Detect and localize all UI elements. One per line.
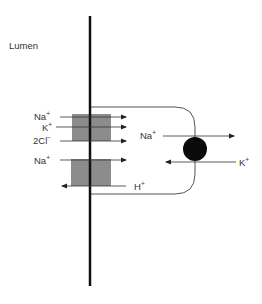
na-label-2: Na+ (34, 154, 50, 166)
na-label-3: Na+ (140, 129, 156, 141)
transport-diagram: Lumen Na+ K+ 2Cl− Na+ H+ Na+ K+ (0, 0, 262, 304)
lumen-label: Lumen (9, 40, 38, 51)
na-k-pump (183, 137, 207, 161)
k-label-2: K+ (239, 156, 249, 168)
nkcc-transporter-box (72, 114, 111, 141)
k-label-1: K+ (42, 121, 52, 133)
cl-label: 2Cl− (33, 134, 51, 146)
h-label: H+ (134, 180, 145, 192)
